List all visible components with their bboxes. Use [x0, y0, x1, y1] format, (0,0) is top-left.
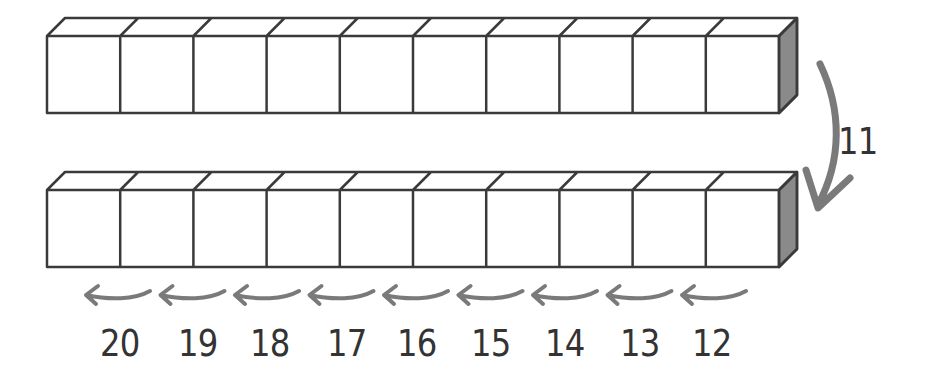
count-label: 19 — [178, 324, 217, 362]
left-arrow-icon — [384, 286, 448, 304]
count-label: 16 — [397, 324, 436, 362]
top-rod — [47, 18, 797, 113]
left-arrow-icon — [235, 286, 299, 304]
left-arrow-icon — [459, 286, 523, 304]
count-label: 12 — [692, 324, 731, 362]
rod-cube-outlines — [47, 172, 797, 267]
count-label: 20 — [100, 324, 139, 362]
bottom-rod — [47, 172, 797, 267]
count-label: 15 — [471, 324, 510, 362]
left-arrow-icon — [533, 286, 597, 304]
rod-cube-outlines — [47, 18, 797, 113]
count-label: 17 — [327, 324, 366, 362]
count-label: 18 — [250, 324, 289, 362]
left-arrow-icon — [608, 286, 672, 304]
ten-rods-diagram — [0, 0, 930, 374]
left-arrow-icon — [310, 286, 374, 304]
transition-label: 11 — [838, 122, 877, 160]
left-arrow-icon — [161, 286, 225, 304]
left-arrow-icon — [682, 286, 746, 304]
count-label: 13 — [620, 324, 659, 362]
left-arrow-icon — [86, 286, 150, 304]
count-label: 14 — [545, 324, 584, 362]
